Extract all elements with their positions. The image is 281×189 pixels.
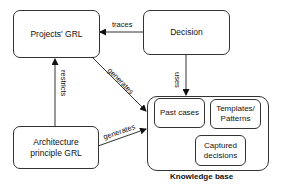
node-decision: Decision (143, 10, 230, 55)
kb-item-templates-patterns: Templates/ Patterns (210, 99, 261, 129)
node-architecture-label: Architecture principle GRL (20, 137, 92, 158)
kb-item-past-cases-label: Past cases (160, 108, 199, 118)
edge-label-uses: uses (173, 72, 182, 88)
knowledge-base-title: Knowledge base (170, 172, 233, 181)
kb-item-past-cases: Past cases (154, 98, 205, 128)
edge-label-restricts: restricts (59, 70, 68, 96)
node-architecture-principle-grl: Architecture principle GRL (13, 126, 99, 169)
node-projects-grl: Projects' GRL (13, 10, 100, 58)
node-projects-grl-label: Projects' GRL (30, 29, 82, 40)
node-decision-label: Decision (170, 27, 203, 38)
kb-item-templates-label: Templates/ Patterns (214, 104, 258, 124)
kb-item-captured-label: Captured decisions (199, 141, 243, 161)
kb-item-captured-decisions: Captured decisions (195, 135, 246, 166)
edge-label-traces: traces (112, 20, 132, 29)
